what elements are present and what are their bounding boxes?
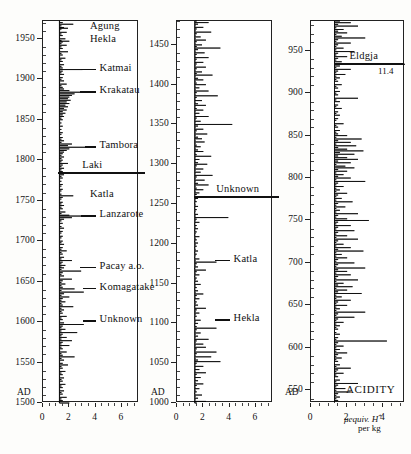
y-minor-tick <box>43 87 46 88</box>
y-minor-tick <box>311 85 314 86</box>
eruption-leader-line <box>215 319 229 321</box>
x-minor-tick <box>114 403 115 406</box>
x-tick-label: 0 <box>308 412 313 422</box>
y-minor-tick <box>311 322 314 323</box>
peak-value-label: 11.4 <box>378 66 393 76</box>
y-minor-tick <box>177 61 180 62</box>
x-minor-tick <box>248 403 249 406</box>
y-minor-tick <box>43 209 46 210</box>
y-minor-tick <box>43 257 46 258</box>
y-minor-tick <box>43 379 46 380</box>
y-minor-tick <box>311 229 314 230</box>
y-minor-tick <box>311 161 314 162</box>
unit-superscript: + <box>378 412 382 420</box>
x-tick-label: 0 <box>174 412 179 422</box>
y-axis-panel-1: 1950190018501800175017001650160015501500 <box>2 20 42 402</box>
y-minor-tick <box>311 204 314 205</box>
y-minor-tick <box>311 331 314 332</box>
y-minor-tick <box>177 69 180 70</box>
y-minor-tick <box>43 128 46 129</box>
x-tick-mark <box>346 403 347 407</box>
y-tick-mark <box>171 163 176 164</box>
y-minor-tick <box>43 152 46 153</box>
y-minor-tick <box>43 249 46 250</box>
y-minor-tick <box>311 399 314 400</box>
y-minor-tick <box>43 31 46 32</box>
x-minor-tick <box>400 403 401 406</box>
y-tick-mark <box>305 177 310 178</box>
y-minor-tick <box>177 148 180 149</box>
eruption-label-tambora: Tambora <box>100 139 139 150</box>
y-minor-tick <box>43 136 46 137</box>
y-tick-mark <box>37 200 42 201</box>
y-minor-tick <box>43 265 46 266</box>
y-tick-mark <box>305 92 310 93</box>
x-minor-tick <box>134 403 135 406</box>
y-minor-tick <box>43 338 46 339</box>
y-tick-mark <box>37 240 42 241</box>
eruption-leader-line <box>80 267 95 269</box>
y-tick-mark <box>171 362 176 363</box>
plot-area-2 <box>177 21 271 401</box>
y-minor-tick <box>311 153 314 154</box>
y-minor-tick <box>311 119 314 120</box>
y-minor-tick <box>177 212 180 213</box>
x-tick-label: 6 <box>119 412 124 422</box>
y-minor-tick <box>311 314 314 315</box>
eruption-label-hekla: Hekla <box>90 33 116 44</box>
x-tick-mark <box>121 403 122 407</box>
y-minor-tick <box>43 184 46 185</box>
y-minor-tick <box>43 217 46 218</box>
eruption-leader-line <box>58 172 145 174</box>
y-minor-tick <box>43 233 46 234</box>
x-minor-tick <box>337 403 338 406</box>
y-tick-mark <box>37 119 42 120</box>
y-minor-tick <box>311 280 314 281</box>
y-minor-tick <box>311 339 314 340</box>
y-minor-tick <box>311 382 314 383</box>
y-minor-tick <box>177 308 180 309</box>
y-tick-mark <box>305 219 310 220</box>
y-tick-mark <box>305 347 310 348</box>
y-minor-tick <box>177 132 180 133</box>
y-minor-tick <box>43 395 46 396</box>
y-minor-tick <box>177 395 180 396</box>
y-minor-tick <box>43 314 46 315</box>
y-minor-tick <box>177 268 180 269</box>
y-minor-tick <box>311 170 314 171</box>
x-tick-label: 2 <box>200 412 205 422</box>
y-tick-mark <box>171 123 176 124</box>
y-minor-tick <box>177 29 180 30</box>
eruption-leader-line <box>83 288 96 290</box>
eruption-label-pacay-a-o: Pacay a.o. <box>100 260 145 271</box>
x-minor-tick <box>55 403 56 406</box>
x-minor-tick <box>108 403 109 406</box>
x-minor-tick <box>81 403 82 406</box>
y-minor-tick <box>311 25 314 26</box>
y-tick-mark <box>305 262 310 263</box>
y-minor-tick <box>177 180 180 181</box>
y-minor-tick <box>177 292 180 293</box>
y-minor-tick <box>311 297 314 298</box>
eruption-label-unknown: Unknown <box>216 183 259 194</box>
y-minor-tick <box>43 95 46 96</box>
y-tick-mark <box>37 159 42 160</box>
eruption-label-agung: Agung <box>90 20 120 31</box>
x-minor-tick <box>242 403 243 406</box>
y-tick-mark <box>171 322 176 323</box>
chart-panel-2 <box>176 20 272 402</box>
y-minor-tick <box>177 101 180 102</box>
x-tick-mark <box>255 403 256 407</box>
y-tick-mark <box>171 203 176 204</box>
y-minor-tick <box>311 271 314 272</box>
y-tick-mark <box>305 50 310 51</box>
y-minor-tick <box>43 112 46 113</box>
y-minor-tick <box>43 144 46 145</box>
x-minor-tick <box>209 403 210 406</box>
y-tick-mark <box>305 304 310 305</box>
y-minor-tick <box>43 371 46 372</box>
y-minor-tick <box>177 172 180 173</box>
y-tick-mark <box>37 38 42 39</box>
x-minor-tick <box>88 403 89 406</box>
eruption-leader-line <box>334 63 405 65</box>
